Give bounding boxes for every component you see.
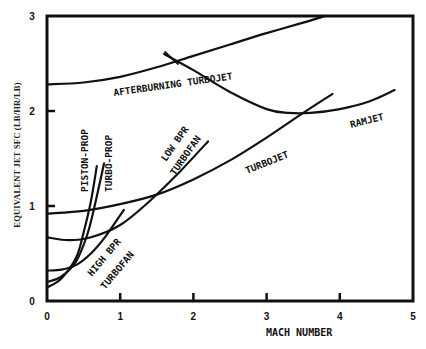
- x-tick-label: 4: [337, 311, 343, 322]
- curve-labels: AFTERBURNING TURBOJET RAMJET TURBOJET LO…: [79, 70, 385, 291]
- x-tick-label: 3: [264, 311, 270, 322]
- x-tick-label: 5: [410, 311, 416, 322]
- label-ramjet: RAMJET: [349, 111, 385, 130]
- x-tick-label: 1: [117, 311, 123, 322]
- y-axis-label: EQUIVALENT JET SFC (LB/HR/LB): [12, 60, 22, 250]
- x-axis-label: MACH NUMBER: [266, 327, 332, 338]
- y-tick-label: 2: [29, 106, 35, 117]
- label-turbo-prop: TURBO-PROP: [103, 135, 114, 192]
- x-tick-label: 0: [44, 311, 50, 322]
- sfc-chart: 0123450123 AFTERBURNING TURBOJET RAMJET …: [0, 0, 426, 349]
- y-tick-label: 1: [29, 201, 35, 212]
- label-turbojet: TURBOJET: [244, 148, 291, 175]
- y-tick-label: 0: [29, 296, 35, 307]
- y-tick-label: 3: [29, 11, 35, 22]
- label-piston-prop: PISTON-PROP: [79, 129, 90, 192]
- x-tick-label: 2: [191, 311, 197, 322]
- curve-afterburning-turbojet: [47, 16, 325, 84]
- curves: [47, 16, 395, 288]
